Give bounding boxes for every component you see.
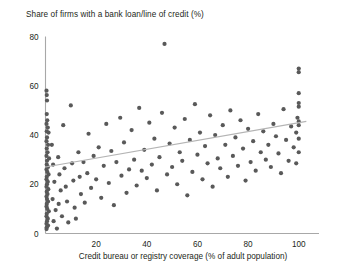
data-point	[297, 101, 301, 105]
chart-figure: Share of firms with a bank loan/line of …	[0, 0, 337, 268]
data-point	[211, 185, 215, 189]
data-point	[45, 112, 49, 116]
data-point	[45, 135, 49, 139]
data-point	[157, 155, 161, 159]
data-point	[69, 103, 73, 107]
data-point	[160, 111, 164, 115]
data-point	[276, 151, 280, 155]
data-point	[246, 127, 250, 131]
data-point	[178, 150, 182, 154]
y-tick-label: 80	[29, 33, 39, 42]
data-point	[45, 98, 49, 102]
data-point	[243, 178, 247, 182]
data-point	[55, 226, 59, 230]
y-tick-label: 60	[29, 82, 39, 91]
data-point	[57, 202, 61, 206]
data-point	[66, 220, 70, 224]
data-point	[147, 121, 151, 125]
data-point	[76, 150, 80, 154]
data-point	[92, 154, 96, 158]
data-point	[102, 164, 106, 168]
data-point	[297, 66, 301, 70]
data-point	[216, 156, 220, 160]
data-point	[79, 192, 83, 196]
y-tick-label: 0	[34, 230, 39, 239]
data-point	[112, 203, 116, 207]
axes	[46, 37, 320, 234]
data-point	[175, 182, 179, 186]
data-point	[61, 123, 65, 127]
data-point	[297, 123, 301, 127]
data-point	[50, 143, 54, 147]
data-point	[59, 188, 63, 192]
data-point	[45, 159, 49, 163]
data-point	[297, 91, 301, 95]
data-point	[183, 117, 187, 121]
data-point	[50, 197, 54, 201]
x-tick-label: 40	[142, 240, 152, 249]
data-point	[94, 177, 98, 181]
data-point	[104, 122, 108, 126]
data-point	[251, 139, 255, 143]
data-point	[124, 191, 128, 195]
data-point	[165, 172, 169, 176]
data-point	[150, 162, 154, 166]
data-point	[71, 178, 75, 182]
data-point	[297, 137, 301, 141]
data-point	[114, 160, 118, 164]
data-point	[97, 145, 101, 149]
x-tick-label: 80	[244, 240, 254, 249]
data-point	[46, 126, 50, 130]
data-point	[193, 102, 197, 106]
data-point	[135, 183, 139, 187]
data-point	[233, 135, 237, 139]
data-point	[297, 70, 301, 74]
data-point	[85, 171, 89, 175]
data-point	[256, 112, 260, 116]
y-tick-label: 20	[29, 180, 39, 189]
data-point	[173, 126, 177, 130]
data-point	[264, 158, 268, 162]
x-axis-tick-labels: 20406080100	[92, 240, 306, 249]
data-point	[259, 150, 263, 154]
data-point	[198, 130, 202, 134]
data-point	[56, 155, 60, 159]
data-point	[162, 42, 166, 46]
data-point	[241, 146, 245, 150]
data-point	[185, 193, 189, 197]
data-point	[195, 153, 199, 157]
data-point	[44, 227, 48, 231]
data-point	[203, 144, 207, 148]
data-point	[249, 160, 253, 164]
data-point	[145, 176, 149, 180]
data-point	[294, 161, 298, 165]
data-point	[52, 219, 56, 223]
data-point	[274, 134, 278, 138]
data-point	[137, 106, 141, 110]
data-point	[54, 208, 58, 212]
data-point	[127, 167, 131, 171]
data-point	[73, 206, 77, 210]
x-axis-title: Credit bureau or registry coverage (% of…	[79, 252, 288, 261]
y-tick-label: 40	[29, 131, 39, 140]
data-point	[218, 166, 222, 170]
data-point	[86, 132, 90, 136]
data-point	[45, 146, 49, 150]
data-point	[132, 158, 136, 162]
data-point	[60, 214, 64, 218]
data-point	[64, 185, 68, 189]
data-point	[118, 116, 122, 120]
scatter-plot: 020406080 20406080100 Credit bureau or r…	[0, 0, 337, 268]
data-point	[107, 181, 111, 185]
data-point	[89, 186, 93, 190]
data-point	[44, 89, 48, 93]
data-point	[170, 165, 174, 169]
data-point	[266, 143, 270, 147]
data-point	[236, 164, 240, 168]
x-tick-label: 100	[292, 240, 306, 249]
data-point	[295, 116, 299, 120]
x-tick-label: 20	[92, 240, 102, 249]
data-point	[44, 122, 48, 126]
data-point	[119, 174, 123, 178]
data-point	[279, 171, 283, 175]
